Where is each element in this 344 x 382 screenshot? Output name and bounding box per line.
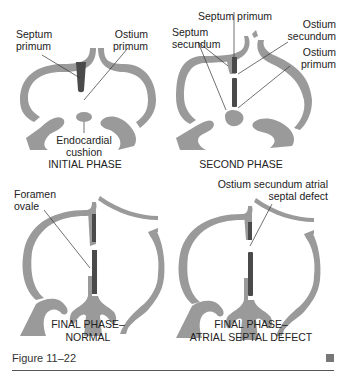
caption-final-asd: FINAL PHASE– ATRIAL SEPTAL DEFECT [186, 318, 316, 344]
label-line: Endocardial [54, 134, 114, 146]
septum-primum-lower [248, 252, 253, 296]
label-line: secundum [280, 30, 336, 42]
septum-primum-upper [248, 222, 252, 240]
right-atrial-roof [98, 196, 158, 220]
septum-primum-shape [76, 62, 86, 92]
label-line: Ostium [280, 18, 336, 30]
caption-line: FINAL PHASE– [38, 318, 138, 331]
endocardial-cushion-shape [76, 112, 92, 122]
caption-initial-phase: INITIAL PHASE [40, 158, 130, 171]
label-line: ovale [14, 200, 56, 212]
left-atrial-wall [23, 202, 97, 300]
septum-primum-lower [232, 78, 237, 107]
end-marker-square [326, 354, 334, 362]
caption-line: NORMAL [38, 331, 138, 344]
panel-final-normal-drawing [20, 196, 165, 336]
caption-line: ATRIAL SEPTAL DEFECT [186, 331, 316, 344]
septum-primum-upper [92, 214, 96, 242]
left-atrial-wall [20, 48, 96, 122]
footer-rule [12, 370, 334, 371]
septum-primum-lower [92, 250, 97, 294]
endocardial-cushion-shape [225, 110, 243, 126]
label-line: Foramen [14, 188, 56, 200]
label-septum-primum-1: Septum primum [16, 28, 52, 52]
label-line: primum [16, 40, 52, 52]
right-ventricle-wall [252, 119, 294, 148]
label-line: cushion [54, 146, 114, 158]
label-line: Septum [172, 26, 220, 38]
label-ostium-secundum: Ostium secundum [280, 18, 336, 42]
left-ventricle-wall [176, 120, 214, 150]
caption-second-phase: SECOND PHASE [196, 158, 286, 171]
label-line: septal defect [210, 190, 328, 202]
caption-line: FINAL PHASE– [186, 318, 316, 331]
label-line: Septum [16, 28, 52, 40]
label-line: Ostium [290, 46, 336, 58]
septum-primum-upper [232, 57, 237, 73]
label-ostium-primum-2: Ostium primum [290, 46, 336, 70]
label-line: primum [290, 58, 336, 70]
label-septum-secundum: Septum secundum [172, 26, 220, 50]
label-septum-primum-2: Septum primum [198, 10, 272, 22]
label-line: Ostium [110, 28, 148, 40]
label-line: Ostium secundum atrial [210, 178, 328, 190]
label-ostium-secundum-asd: Ostium secundum atrial septal defect [210, 178, 328, 202]
label-ostium-primum-1: Ostium primum [110, 28, 148, 52]
label-line: primum [110, 40, 148, 52]
label-endocardial-cushion: Endocardial cushion [54, 134, 114, 158]
right-atrial-wall [98, 48, 156, 128]
label-line: secundum [172, 38, 220, 50]
caption-final-normal: FINAL PHASE– NORMAL [38, 318, 138, 344]
label-foramen-ovale: Foramen ovale [14, 188, 56, 212]
left-atrial-wall [179, 206, 253, 304]
figure-number: Figure 11–22 [12, 352, 76, 364]
